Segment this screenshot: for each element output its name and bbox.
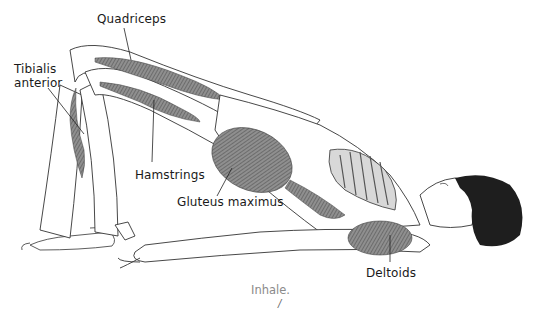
caption-inhale: Inhale. [251,283,290,297]
deltoids-muscle [348,221,412,255]
label-quadriceps: Quadriceps [97,12,166,26]
label-hamstrings: Hamstrings [135,168,205,182]
figure-drawing [0,0,540,314]
label-tibialis-line2: anterior [14,76,62,90]
label-gluteus-maximus: Gluteus maximus [177,195,284,209]
bridge-pose-illustration: Quadriceps Tibialis anterior Hamstrings … [0,0,540,314]
head [420,175,522,246]
legs [40,80,135,240]
label-deltoids: Deltoids [366,266,416,280]
page-mark: / [278,298,281,309]
label-tibialis-line1: Tibialis [14,62,56,76]
